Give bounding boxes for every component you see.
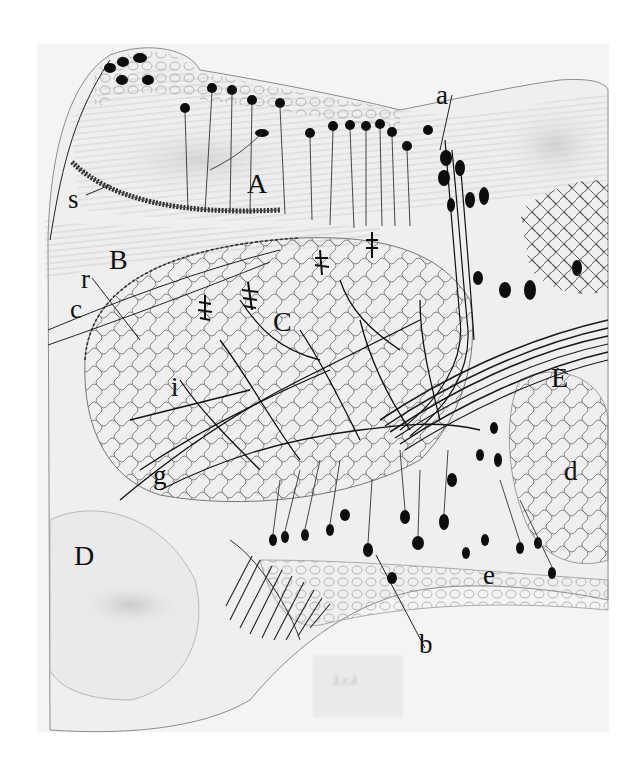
stamp-text: λ.ε.λ (333, 673, 358, 689)
label-c: c (70, 296, 82, 323)
label-g: g (153, 462, 167, 489)
label-i: i (171, 374, 179, 401)
region-C (85, 238, 473, 502)
label-B: B (109, 246, 128, 274)
label-A: A (247, 170, 267, 198)
label-E: E (551, 364, 568, 392)
label-D: D (74, 542, 94, 570)
label-e: e (483, 562, 495, 589)
archive-stamp: λ.ε.λ (313, 655, 403, 717)
label-s: s (68, 186, 79, 213)
illustration-plate (0, 0, 642, 769)
label-r: r (81, 266, 90, 293)
label-C: C (273, 308, 292, 336)
label-a: a (436, 82, 448, 109)
label-b: b (419, 631, 433, 658)
label-d: d (564, 458, 578, 485)
